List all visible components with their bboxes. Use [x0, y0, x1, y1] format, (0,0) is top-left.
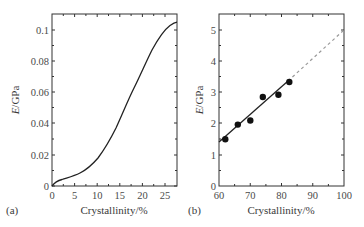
data-point	[235, 121, 241, 127]
data-point	[275, 92, 281, 98]
y-tick-label: 2	[211, 118, 216, 129]
y-ticks-b	[219, 30, 344, 171]
x-tick-labels-b: 60 70 80 90 100	[214, 190, 352, 201]
x-tick-label: 20	[137, 190, 148, 201]
y-ticks-a	[52, 30, 177, 186]
plot-frame-b	[219, 14, 344, 186]
fit-line-b	[219, 81, 288, 142]
x-tick-label: 15	[115, 190, 126, 201]
x-tick-labels-a: 0 5 10 15 20 25	[49, 190, 170, 201]
data-point	[286, 79, 292, 85]
data-points-b	[222, 79, 292, 143]
x-tick-label: 5	[72, 190, 77, 201]
data-point	[260, 94, 266, 100]
x-axis-label-b: Crystallinity/%	[247, 204, 314, 216]
y-tick-label: 5	[211, 25, 216, 36]
x-axis-label-a: Crystallinity/%	[80, 204, 147, 216]
x-tick-label: 0	[49, 190, 54, 201]
y-tick-label: 0.1	[36, 25, 49, 36]
x-tick-label: 10	[92, 190, 103, 201]
extrapolation-line-b	[288, 30, 344, 81]
y-axis-label-unit: /GPa	[193, 86, 205, 108]
x-tick-label: 80	[276, 190, 287, 201]
panel-a: 0 0.02 0.04 0.06 0.08 0.1 0 5 10 15 20 2…	[6, 14, 177, 217]
x-tick-label: 100	[336, 190, 352, 201]
y-axis-label-b: E/GPa	[193, 86, 205, 116]
y-tick-label: 0.08	[31, 56, 49, 67]
y-axis-label-unit: /GPa	[9, 86, 21, 108]
curve-line-a	[52, 22, 177, 186]
y-tick-label: 3	[211, 87, 216, 98]
y-tick-label: 0.06	[31, 87, 49, 98]
y-tick-labels-a: 0 0.02 0.04 0.06 0.08 0.1	[31, 25, 50, 192]
y-tick-labels-b: 0 1 2 3 4 5	[211, 25, 217, 192]
x-tick-label: 60	[214, 190, 225, 201]
y-tick-label: 4	[211, 56, 217, 67]
x-ticks-a	[63, 14, 165, 186]
y-tick-label: 0.04	[31, 118, 50, 129]
y-axis-label-a: E/GPa	[9, 86, 21, 116]
x-tick-label: 25	[160, 190, 171, 201]
y-tick-label: 1	[211, 150, 216, 161]
y-tick-label: 0	[44, 181, 49, 192]
data-point	[222, 136, 228, 142]
figure: 0 0.02 0.04 0.06 0.08 0.1 0 5 10 15 20 2…	[0, 0, 364, 227]
x-ticks-b	[235, 14, 329, 186]
panel-label-b: (b)	[188, 204, 201, 217]
data-point	[247, 117, 253, 123]
y-tick-label: 0.02	[31, 150, 49, 161]
x-tick-label: 70	[245, 190, 256, 201]
panel-label-a: (a)	[6, 204, 19, 217]
panel-b: 0 1 2 3 4 5 60 70 80 90 100 Crystallinit…	[188, 14, 352, 217]
x-tick-label: 90	[308, 190, 319, 201]
